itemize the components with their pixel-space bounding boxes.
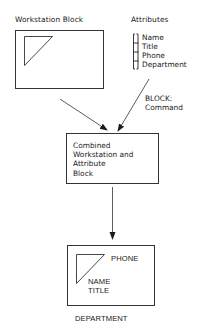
workstation-block-label: Workstation Block [15, 15, 83, 24]
attribute-item-name: Name [142, 33, 187, 42]
combined-block-line: Workstation and [73, 150, 133, 159]
workstation-triangle-icon [25, 37, 53, 66]
attribute-item-phone: Phone [142, 51, 187, 60]
combined-block-label: Combined Workstation and Attribute Block [73, 141, 133, 178]
attribute-item-department: Department [142, 60, 187, 69]
result-title-label: TITLE [88, 286, 109, 295]
combined-block-line: Block [73, 169, 133, 178]
combined-block-line: Attribute [73, 159, 133, 168]
result-name-label: NAME [88, 277, 110, 286]
attributes-label: Attributes [131, 15, 168, 24]
block-command-line: Command [145, 103, 183, 112]
attribute-item-title: Title [142, 42, 187, 51]
block-command-line: BLOCK: [145, 94, 183, 103]
arrow-workstation-to-combined [60, 99, 107, 130]
result-phone-label: PHONE [111, 254, 139, 263]
result-department-label: DEPARTMENT [75, 314, 128, 323]
block-command-label: BLOCK: Command [145, 94, 183, 112]
attribute-bracket-icons [133, 34, 139, 69]
workstation-block-box [16, 31, 104, 89]
attribute-list: Name Title Phone Department [142, 33, 187, 69]
combined-block-line: Combined [73, 141, 133, 150]
